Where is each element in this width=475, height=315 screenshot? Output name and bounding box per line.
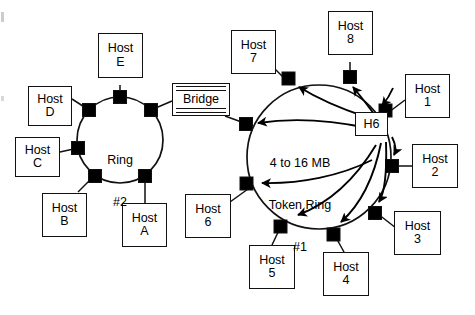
ring1-node-bridge xyxy=(240,118,253,131)
host-6-line1: Host xyxy=(195,203,221,216)
diagram-canvas: Host D Host E Host C Host B Host A Bridg… xyxy=(0,0,475,315)
host-d-line2: D xyxy=(45,106,54,119)
host-d-line1: Host xyxy=(37,93,63,106)
ring1-caption-line3: #1 xyxy=(258,240,342,254)
ring1-node-host-6 xyxy=(240,177,253,190)
host-1-line2: 1 xyxy=(424,96,431,109)
bridge-label: Bridge xyxy=(176,92,226,107)
host-8-line1: Host xyxy=(338,20,364,33)
ring1-caption-line2: Token Ring xyxy=(258,198,342,212)
bridge-rule-top-2 xyxy=(176,90,226,91)
host-6-line2: 6 xyxy=(205,216,212,229)
bridge-box[interactable]: Bridge xyxy=(172,83,230,116)
bridge-rule-bottom-1 xyxy=(176,108,226,109)
ring2-node-host-c xyxy=(72,142,85,155)
host-c-line1: Host xyxy=(25,144,51,157)
arrow-h6-to-host-2 xyxy=(392,137,395,155)
h6-box[interactable]: H6 xyxy=(355,112,388,136)
host-4-line2: 4 xyxy=(343,274,350,287)
host-2-line1: Host xyxy=(422,153,448,166)
host-7-line1: Host xyxy=(241,39,267,52)
host-2-line2: 2 xyxy=(432,166,439,179)
ring2-node-bridge xyxy=(145,104,158,117)
ring2-caption-line1: Ring xyxy=(90,153,150,167)
ring1-node-host-8 xyxy=(344,71,357,84)
arrow-h6-to-host-8 xyxy=(353,87,374,114)
host-8-line2: 8 xyxy=(347,33,354,46)
host-box-host-1[interactable]: Host 1 xyxy=(405,74,450,118)
ring2-caption: Ring #2 xyxy=(90,125,150,237)
scan-artifact-top xyxy=(1,12,4,22)
arrow-h6-to-ring-node xyxy=(382,88,393,106)
host-b-line1: Host xyxy=(52,202,78,215)
host-box-host-e[interactable]: Host E xyxy=(98,33,143,78)
ring1-link-host-6 xyxy=(230,189,248,202)
host-e-line2: E xyxy=(116,56,124,69)
ring1-node-host-7 xyxy=(282,72,295,85)
host-3-line2: 3 xyxy=(414,233,421,246)
ring1-caption: 4 to 16 MB Token Ring #1 xyxy=(258,128,342,282)
host-box-host-d[interactable]: Host D xyxy=(28,86,72,126)
host-box-host-8[interactable]: Host 8 xyxy=(328,11,373,55)
ring1-caption-line1: 4 to 16 MB xyxy=(258,156,342,170)
host-b-line2: B xyxy=(60,215,68,228)
arrow-h6-to-bridge xyxy=(258,120,368,128)
h6-label: H6 xyxy=(364,117,380,131)
host-box-host-2[interactable]: Host 2 xyxy=(412,144,458,188)
ring2-node-host-e xyxy=(114,91,127,104)
host-e-line1: Host xyxy=(108,42,134,55)
host-box-host-7[interactable]: Host 7 xyxy=(231,30,276,74)
bridge-rule-top-1 xyxy=(176,86,226,87)
bridge-rule-bottom-2 xyxy=(176,112,226,113)
host-box-host-3[interactable]: Host 3 xyxy=(394,211,441,255)
ring1-node-host-2 xyxy=(386,160,399,173)
host-c-line2: C xyxy=(33,157,42,170)
ring1-node-host-3 xyxy=(369,207,382,220)
host-box-host-b[interactable]: Host B xyxy=(42,193,87,237)
ring2-caption-line2: #2 xyxy=(90,195,150,209)
host-box-host-6[interactable]: Host 6 xyxy=(185,194,231,238)
ring2-node-host-d xyxy=(83,104,96,117)
host-3-line1: Host xyxy=(405,220,431,233)
host-7-line2: 7 xyxy=(250,52,257,65)
host-1-line1: Host xyxy=(415,83,441,96)
scan-artifact-bottom xyxy=(1,96,4,101)
host-box-host-c[interactable]: Host C xyxy=(15,137,60,177)
